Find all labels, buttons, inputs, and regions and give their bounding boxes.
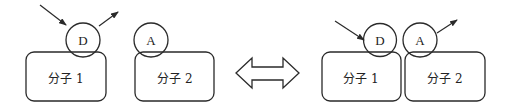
outgoing-arrow-icon	[437, 20, 457, 33]
double-arrow-icon	[236, 58, 299, 88]
right-molecule-2: 分子 2	[405, 52, 485, 101]
left-state: 分子 1 D 分子 2 A	[26, 5, 214, 101]
incoming-arrow-icon	[335, 21, 364, 40]
molecule-2-label: 分子 2	[427, 72, 462, 86]
acceptor-label: A	[415, 33, 425, 48]
left-molecule-1: 分子 1	[26, 52, 106, 101]
donor-label: D	[78, 33, 87, 48]
incoming-arrow-icon	[40, 5, 66, 25]
acceptor-label: A	[146, 33, 156, 48]
outgoing-arrow-icon	[99, 12, 118, 26]
left-donor-group: D	[40, 5, 118, 57]
right-state: 分子 1 分子 2 D A	[322, 20, 485, 101]
molecule-1-label: 分子 1	[343, 72, 378, 86]
molecule-1-label: 分子 1	[48, 72, 83, 86]
right-donor-group: D	[335, 21, 397, 57]
right-molecule-1: 分子 1	[322, 52, 401, 101]
diagram-canvas: 分子 1 D 分子 2 A 分子 1 分子 2 D	[0, 0, 510, 110]
molecule-2-label: 分子 2	[157, 72, 192, 86]
left-molecule-2: 分子 2	[135, 52, 214, 101]
donor-label: D	[375, 33, 384, 48]
